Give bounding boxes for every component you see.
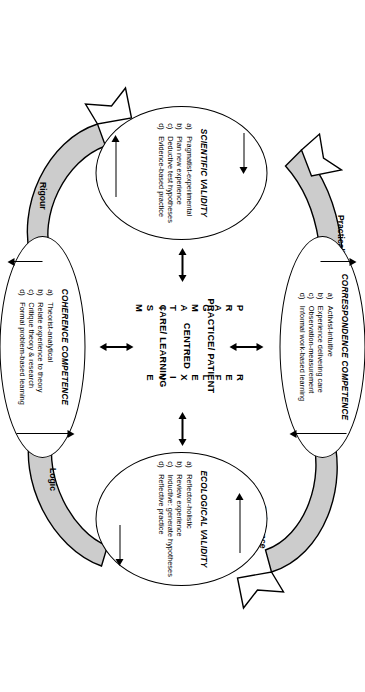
- list-text: Observation-measurement: [306, 306, 315, 394]
- node-arrow-head: [236, 493, 244, 500]
- list-bullet: c): [306, 293, 315, 302]
- list-bullet: a): [183, 123, 192, 132]
- list-item: a)Activist-intuitive: [324, 293, 333, 401]
- node-item-list: a)Activist-intuitive b)Experience delive…: [296, 293, 334, 401]
- node-arrow-shaft: [119, 525, 120, 561]
- vertical-letter: A: [211, 305, 222, 312]
- centre-arrow-up: [229, 342, 263, 352]
- vertical-letter: R: [234, 374, 245, 381]
- vertical-letter: V: [155, 374, 166, 381]
- vertical-letter: X: [178, 374, 189, 381]
- list-text: Pragmatist-experimental: [183, 136, 192, 216]
- node-item-list: a)Theorist-analytical b)Relate experienc…: [16, 289, 54, 405]
- vertical-letter: I: [155, 307, 166, 310]
- list-bullet: b): [174, 123, 183, 132]
- list-text: Formal problem-based learning: [16, 302, 25, 405]
- vertical-letter: S: [144, 305, 155, 312]
- list-item: c)Critique theory & research: [26, 289, 35, 405]
- vertical-letter: T: [167, 305, 178, 311]
- vertical-letter: G: [200, 304, 211, 312]
- list-item: b)Plan new experience: [174, 123, 183, 223]
- list-text: Reflective practice: [155, 474, 164, 534]
- node-item-list: a)Reflector-holistic b)Review experience…: [155, 461, 193, 577]
- list-item: a)Pragmatist-experimental: [183, 123, 192, 223]
- centre-line-3: CARE/ LEARNING: [157, 246, 167, 446]
- list-item: a)Theorist-analytical: [44, 289, 53, 405]
- node-arrow-shaft: [115, 141, 116, 197]
- centre-text-block: PRACTICE/ PATIENT CENTRED CARE/ LEARNING…: [95, 246, 267, 446]
- list-text: Theorist-analytical: [44, 302, 53, 362]
- node-coherence-competence: COHERENCE COMPETENCE a)Theorist-analytic…: [0, 236, 85, 458]
- list-text: Activist-intuitive: [324, 306, 333, 357]
- list-item: d)Reflective practice: [155, 461, 164, 577]
- node-arrow-head: [112, 135, 120, 142]
- node-arrow-head: [116, 559, 124, 566]
- list-bullet: a): [183, 461, 192, 470]
- centre-arrow-left: [177, 248, 187, 282]
- list-text: Evidence-based practice: [155, 136, 164, 217]
- vertical-letter: E: [223, 374, 234, 381]
- list-bullet: d): [16, 289, 25, 298]
- list-text: Inductive: generate hypotheses: [165, 474, 174, 577]
- vertical-letter: R: [223, 305, 234, 312]
- node-ecological-validity: ECOLOGICAL VALIDITY a)Reflector-holistic…: [95, 452, 267, 586]
- vertical-letter: I: [167, 376, 178, 379]
- list-bullet: a): [324, 293, 333, 302]
- centre-vertical-reflexive: REFLEXIVE: [144, 374, 245, 381]
- list-bullet: d): [155, 123, 164, 132]
- vertical-letter: E: [144, 374, 155, 381]
- centre-vertical-pragmatism: PRAGMATISM: [133, 304, 245, 312]
- node-arrow-head: [240, 167, 248, 174]
- list-item: b)Experience delivering care: [315, 293, 324, 401]
- list-bullet: b): [174, 461, 183, 470]
- list-text: Review experience: [174, 474, 183, 536]
- list-bullet: b): [35, 289, 44, 298]
- list-item: a)Reflector-holistic: [183, 461, 192, 577]
- list-bullet: d): [296, 293, 305, 302]
- vertical-letter: A: [178, 305, 189, 312]
- list-text: Informal work-based learning: [296, 306, 305, 401]
- list-item: c)Observation-measurement: [306, 293, 315, 401]
- connector-label-rigour: Rigour: [37, 182, 47, 210]
- vertical-letter: P: [234, 305, 245, 312]
- node-arrow-head: [289, 430, 296, 438]
- list-item: b)Relate experience to theory: [35, 289, 44, 405]
- node-title: SCIENTIFIC VALIDITY: [198, 129, 207, 217]
- list-item: d)Informal work-based learning: [296, 293, 305, 401]
- vertical-letter: E: [189, 374, 200, 381]
- node-arrow-head: [349, 258, 356, 266]
- centre-arrow-right: [177, 412, 187, 446]
- node-arrow-shaft: [239, 499, 240, 553]
- list-bullet: a): [44, 289, 53, 298]
- vertical-letter: M: [189, 304, 200, 312]
- vertical-letter: L: [200, 375, 211, 381]
- list-item: b)Review experience: [174, 461, 183, 577]
- node-title: CORRESPONDENCE COMPETENCE: [339, 274, 348, 420]
- node-arrow-shaft: [294, 433, 346, 434]
- centre-arrow-down: [99, 342, 133, 352]
- node-arrow-shaft: [243, 133, 244, 169]
- list-item: c)Inductive: generate hypotheses: [165, 461, 174, 577]
- list-text: Relate experience to theory: [35, 302, 44, 392]
- list-bullet: c): [165, 461, 174, 470]
- node-scientific-validity: SCIENTIFIC VALIDITY a)Pragmatist-experim…: [95, 106, 267, 240]
- list-bullet: d): [155, 461, 164, 470]
- node-arrow-head: [67, 430, 74, 438]
- node-arrow-shaft: [16, 433, 68, 434]
- centre-line-1: PRACTICE/ PATIENT: [205, 246, 215, 446]
- list-text: Reflector-holistic: [183, 474, 192, 529]
- list-text: Critique theory & research: [26, 302, 35, 388]
- connector-label-logic: Logic: [47, 468, 57, 491]
- node-arrow-shaft: [12, 261, 42, 262]
- vertical-letter: F: [211, 375, 222, 381]
- node-arrow-head: [7, 258, 14, 266]
- list-text: Deductive test hypotheses: [165, 136, 174, 223]
- list-bullet: c): [26, 289, 35, 298]
- list-item: c)Deductive test hypotheses: [165, 123, 174, 223]
- list-bullet: b): [315, 293, 324, 302]
- vertical-letter: M: [133, 304, 144, 312]
- node-correspondence-competence: CORRESPONDENCE COMPETENCE a)Activist-int…: [279, 236, 365, 458]
- list-item: d)Evidence-based practice: [155, 123, 164, 223]
- list-text: Plan new experience: [174, 136, 183, 205]
